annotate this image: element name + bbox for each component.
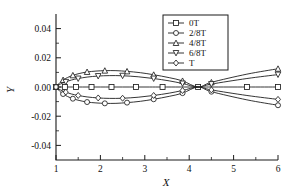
data-point-marker [73,85,78,90]
legend-label: 6/8T [189,48,207,58]
legend-label: 4/8T [189,38,207,48]
data-point-marker [275,66,281,71]
chart-legend: 0T2/8T4/8T6/8TT [163,15,228,70]
x-tick-label: 3 [142,164,147,174]
y-tick-label: 0.02 [34,53,51,63]
data-point-marker [62,85,67,90]
y-tick-label: 0.04 [34,24,51,34]
x-tick-label: 2 [98,164,103,174]
data-point-marker [85,100,90,105]
data-point-marker [160,85,165,90]
x-tick-label: 6 [276,164,281,174]
chart-figure: 123456-0.04-0.020.000.020.04 0T2/8T4/8T6… [0,0,284,194]
data-point-marker [174,31,179,36]
series-0T [54,85,281,90]
x-tick-label: 1 [54,164,59,174]
data-point-marker [120,95,125,101]
line-chart: 123456-0.04-0.020.000.020.04 0T2/8T4/8T6… [0,0,284,194]
data-point-marker [276,103,281,108]
data-point-marker [276,85,281,90]
data-point-marker [244,85,249,90]
legend-label: T [189,58,195,68]
data-point-marker [89,85,94,90]
data-point-marker [133,85,138,90]
y-tick-label: -0.02 [31,112,51,122]
y-axis-title: Y [4,85,16,93]
legend-label: 2/8T [189,28,207,38]
legend-label: 0T [189,18,200,28]
data-point-marker [76,92,81,98]
data-point-marker [109,85,114,90]
data-point-marker [125,100,130,105]
data-point-marker [102,101,107,106]
y-tick-label: 0.00 [34,83,51,93]
data-point-marker [174,21,179,26]
chart-series-group [53,66,281,108]
x-axis-title: X [162,176,171,188]
x-tick-label: 4 [187,164,192,174]
data-point-marker [70,96,75,101]
data-point-marker [96,95,101,101]
chart-axes: 123456-0.04-0.020.000.020.04 [31,14,280,174]
x-tick-label: 5 [231,164,236,174]
y-tick-label: -0.04 [31,141,51,151]
data-point-marker [276,96,281,102]
